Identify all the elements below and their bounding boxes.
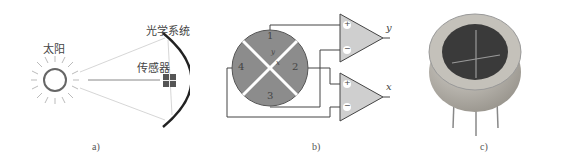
- sun-icon: [31, 56, 79, 104]
- quadrant-4: 4: [238, 61, 244, 72]
- sensor-package-illustration: [390, 0, 562, 163]
- quadrant-2: 2: [292, 61, 298, 72]
- sun-label: 太阳: [43, 40, 65, 56]
- amp-bottom-minus: −: [344, 101, 351, 110]
- amp-top-minus: −: [344, 44, 351, 53]
- axis-y-label: y: [271, 48, 275, 56]
- optics-label: 光学系统: [146, 22, 190, 38]
- caption-c: c): [480, 141, 488, 152]
- caption-b: b): [312, 141, 320, 152]
- amp-top-plus: +: [344, 19, 351, 28]
- sensor-icon: [163, 74, 176, 87]
- axis-x-label: x: [276, 59, 280, 67]
- caption-a: a): [92, 141, 100, 152]
- quadrant-circuit-diagram: [190, 0, 390, 163]
- panel-c-sensor-photo: c): [390, 0, 562, 163]
- sensor-label: 传感器: [137, 59, 170, 75]
- quadrant-3: 3: [267, 90, 273, 101]
- quadrant-1: 1: [267, 30, 273, 41]
- amp-bottom-plus: +: [344, 78, 351, 87]
- panel-a-sun-tracking: 太阳 光学系统 传感器 a): [0, 0, 190, 163]
- panel-b-quadrant-circuit: 1 2 3 4 y x + − + − y x b): [190, 0, 390, 163]
